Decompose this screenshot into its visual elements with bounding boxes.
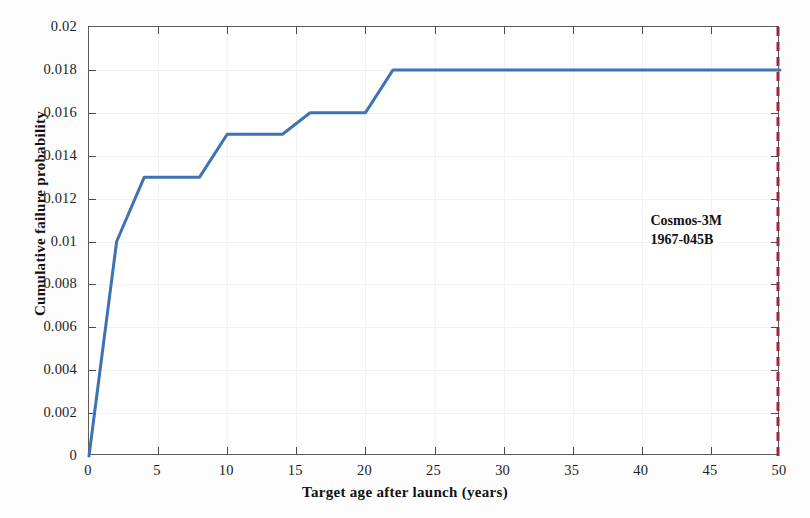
annotation-line-1: Cosmos-3M — [650, 212, 722, 231]
y-axis-tick-label: 0.002 — [0, 404, 77, 421]
y-axis-tick-label: 0.014 — [0, 146, 77, 163]
series-line-cumulative-failure-probability — [89, 70, 780, 456]
x-axis-tick-label: 25 — [426, 462, 441, 479]
y-axis-tick-label: 0.004 — [0, 361, 77, 378]
cosmos-3m-annotation: Cosmos-3M 1967-045B — [650, 212, 722, 250]
x-axis-tick-label: 50 — [772, 462, 787, 479]
x-axis-tick-label: 45 — [702, 462, 717, 479]
x-axis-tick-label: 10 — [219, 462, 234, 479]
y-axis-tick-label: 0.02 — [0, 18, 77, 35]
y-axis-tick-label: 0.018 — [0, 60, 77, 77]
y-axis-tick-label: 0.008 — [0, 275, 77, 292]
x-axis-tick-label: 30 — [495, 462, 510, 479]
y-axis-tick-label: 0.006 — [0, 318, 77, 335]
x-axis-tick-label: 20 — [357, 462, 372, 479]
y-axis-tick-label: 0.01 — [0, 232, 77, 249]
x-axis-tick-label: 5 — [153, 462, 160, 479]
annotation-line-2: 1967-045B — [650, 231, 722, 250]
x-axis-tick-label: 0 — [84, 462, 91, 479]
y-axis-tick-label: 0 — [0, 447, 77, 464]
x-axis-tick-label: 35 — [564, 462, 579, 479]
chart-page: Cumulative failure probability Target ag… — [0, 0, 810, 518]
x-axis-tick-label: 15 — [288, 462, 303, 479]
x-axis-title: Target age after launch (years) — [0, 484, 810, 501]
y-axis-tick-label: 0.012 — [0, 189, 77, 206]
x-axis-tick-label: 40 — [633, 462, 648, 479]
y-axis-tick-label: 0.016 — [0, 103, 77, 120]
